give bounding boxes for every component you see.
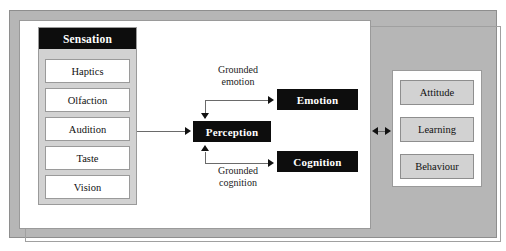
- edge-label-grounded-emotion: Grounded emotion: [192, 64, 284, 88]
- edge-sensation-to-perception-arrowhead: [185, 127, 191, 135]
- outcome-box-learning: Learning: [400, 117, 474, 142]
- edge-grounded-emotion-horizontal: [205, 100, 270, 101]
- sense-box-vision: Vision: [45, 175, 130, 199]
- edge-grounded-cognition-arrowhead-perception: [201, 145, 209, 151]
- edge-bidirectional-arrowhead-left: [372, 127, 378, 135]
- edge-sensation-to-perception-line: [137, 131, 185, 132]
- process-box-cognition: Cognition: [277, 151, 358, 172]
- sense-box-haptics: Haptics: [45, 59, 130, 83]
- sense-box-audition: Audition: [45, 117, 130, 141]
- diagram-canvas: Sensation Haptics Olfaction Audition Tas…: [0, 0, 506, 251]
- edge-label-grounded-emotion-line2: emotion: [192, 76, 284, 88]
- outcome-box-attitude: Attitude: [400, 80, 474, 105]
- process-box-perception: Perception: [193, 121, 271, 142]
- edge-bidirectional-arrowhead-right: [385, 127, 391, 135]
- sensation-header: Sensation: [39, 28, 136, 49]
- edge-label-grounded-emotion-line1: Grounded: [192, 64, 284, 76]
- outcome-box-behaviour: Behaviour: [400, 154, 474, 179]
- sense-box-taste: Taste: [45, 146, 130, 170]
- edge-grounded-emotion-arrowhead-perception: [201, 113, 209, 119]
- edge-label-grounded-cognition-line1: Grounded: [192, 165, 284, 177]
- edge-label-grounded-cognition: Grounded cognition: [192, 165, 284, 189]
- edge-grounded-emotion-arrowhead-emotion: [268, 96, 274, 104]
- process-box-emotion: Emotion: [277, 89, 358, 110]
- sense-box-olfaction: Olfaction: [45, 88, 130, 112]
- edge-label-grounded-cognition-line2: cognition: [192, 177, 284, 189]
- edge-grounded-cognition-horizontal: [205, 163, 270, 164]
